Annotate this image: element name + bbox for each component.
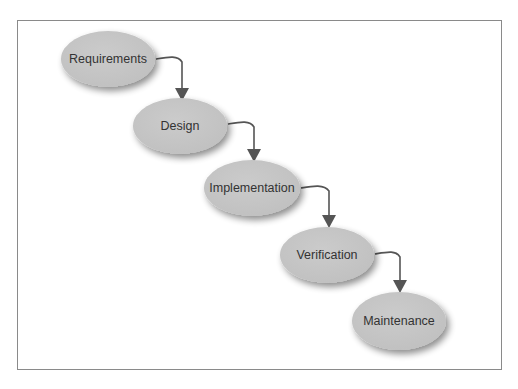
- arrow-verification-to-maintenance: [375, 252, 400, 283]
- node-label-design: Design: [161, 119, 200, 133]
- arrow-requirements-to-design: [156, 57, 182, 91]
- arrowhead-icon: [393, 280, 407, 293]
- node-label-implementation: Implementation: [209, 181, 295, 195]
- arrowhead-icon: [322, 215, 336, 228]
- node-label-verification: Verification: [296, 248, 357, 262]
- arrow-design-to-implementation: [228, 122, 254, 152]
- arrow-implementation-to-verification: [301, 186, 329, 218]
- node-label-requirements: Requirements: [69, 52, 147, 66]
- node-label-maintenance: Maintenance: [363, 314, 435, 328]
- waterfall-diagram: Requirements Design Implementation Verif…: [0, 0, 518, 389]
